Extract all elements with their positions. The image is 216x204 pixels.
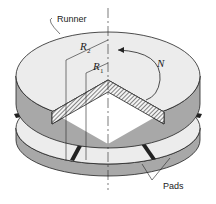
svg-text:Runner: Runner (57, 14, 87, 24)
svg-text:R: R (92, 60, 100, 72)
svg-text:Pads: Pads (163, 181, 184, 191)
svg-text:1: 1 (100, 67, 104, 75)
svg-text:N: N (156, 57, 165, 69)
runner-label: Runner (50, 14, 86, 34)
thrust-bearing-diagram: R 2 R 1 N Runner Pads (0, 0, 216, 204)
svg-text:2: 2 (87, 47, 91, 55)
svg-text:R: R (79, 40, 87, 52)
